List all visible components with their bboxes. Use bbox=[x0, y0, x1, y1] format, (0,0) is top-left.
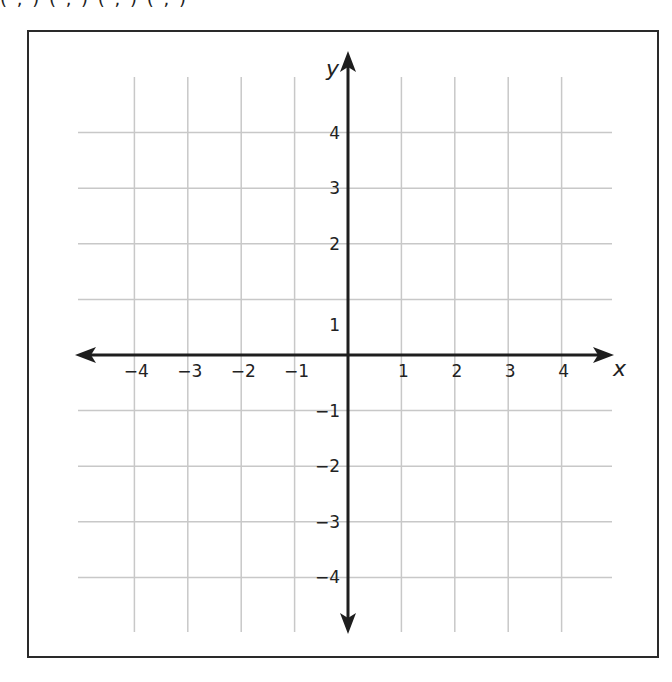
y-tick-label: 3 bbox=[329, 178, 340, 198]
y-tick-label: −2 bbox=[315, 456, 340, 476]
x-axis-label: x bbox=[612, 356, 627, 381]
y-axis-label: y bbox=[325, 56, 340, 81]
x-tick-label: 3 bbox=[505, 361, 516, 381]
x-tick-label: −1 bbox=[284, 361, 309, 381]
y-tick-label: −3 bbox=[315, 512, 340, 532]
x-tick-label: −2 bbox=[231, 361, 256, 381]
y-tick-label: 1 bbox=[329, 315, 340, 335]
y-tick-label: 2 bbox=[329, 234, 340, 254]
x-tick-label: 2 bbox=[451, 361, 462, 381]
x-tick-label: −3 bbox=[177, 361, 202, 381]
y-tick-label: −4 bbox=[315, 567, 340, 587]
y-tick-label: 4 bbox=[329, 123, 340, 143]
x-tick-labels: −4−3−2−11234 bbox=[124, 361, 569, 381]
x-tick-label: 1 bbox=[398, 361, 409, 381]
y-tick-label: −1 bbox=[315, 401, 340, 421]
x-tick-label: 4 bbox=[558, 361, 569, 381]
coordinate-plane: −4−3−2−11234 4321−1−2−3−4 x y bbox=[0, 0, 672, 682]
axes bbox=[75, 51, 614, 634]
x-tick-label: −4 bbox=[124, 361, 149, 381]
